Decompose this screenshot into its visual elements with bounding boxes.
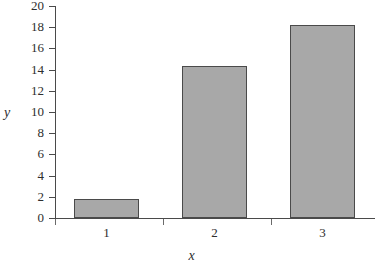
bar <box>290 25 355 218</box>
bar-chart: y 02468101214161820 123 x <box>0 0 383 272</box>
bar <box>182 66 247 218</box>
x-axis-tick-label: 3 <box>303 226 343 240</box>
x-axis-line <box>55 218 375 219</box>
bar <box>74 199 139 218</box>
x-axis-tick-label: 2 <box>195 226 235 240</box>
x-axis-tick-label: 1 <box>87 226 127 240</box>
x-axis-title: x <box>0 248 383 264</box>
bar-series <box>0 6 383 218</box>
x-axis-tick <box>163 219 164 225</box>
x-axis-tick <box>271 219 272 225</box>
x-axis-tick <box>55 219 56 225</box>
